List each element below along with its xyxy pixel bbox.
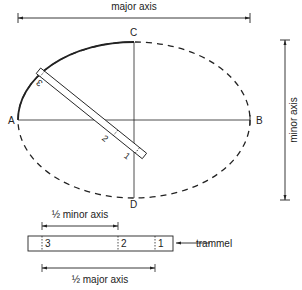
point-a-label: A (8, 115, 15, 126)
half-minor-axis-label: ½ minor axis (52, 209, 109, 220)
trammel-on-ellipse: 3 2 1 (28, 68, 146, 168)
point-d-label: D (130, 199, 137, 210)
strip-mark-2: 2 (121, 238, 127, 249)
half-minor-axis-dimension: ½ minor axis (42, 209, 118, 230)
half-major-axis-label: ½ major axis (72, 274, 129, 285)
half-major-axis-dimension: ½ major axis (42, 264, 155, 285)
point-b-label: B (256, 115, 263, 126)
ellipse-trammel-diagram: major axis minor axis A B C D 3 2 1 ½ mi… (0, 0, 302, 290)
strip-mark-1: 1 (158, 238, 164, 249)
trammel-strip: 3 2 1 (28, 236, 173, 251)
trammel-mark-2: 2 (100, 133, 110, 144)
major-axis-label: major axis (111, 1, 157, 12)
major-axis-dimension: major axis (18, 1, 250, 23)
minor-axis-dimension: minor axis (280, 40, 299, 200)
trammel-mark-1: 1 (122, 151, 132, 162)
minor-axis-label: minor axis (288, 97, 299, 143)
trammel-label: trammel (196, 238, 232, 249)
trammel-callout: trammel (176, 238, 232, 249)
point-c-label: C (130, 27, 137, 38)
strip-mark-3: 3 (45, 238, 51, 249)
ellipse-drawn-arc (18, 42, 134, 120)
